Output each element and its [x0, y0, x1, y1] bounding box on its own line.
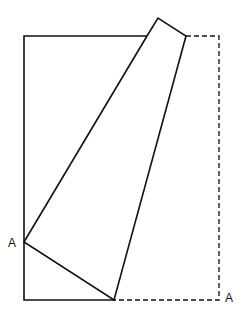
label-a-corner: A — [225, 292, 233, 304]
rectangle-dashed-edges — [114, 36, 219, 300]
fold-diagram — [0, 0, 247, 320]
folded-flap — [24, 18, 186, 300]
label-a-left: A — [8, 237, 16, 249]
rectangle-solid-edges — [24, 36, 147, 300]
